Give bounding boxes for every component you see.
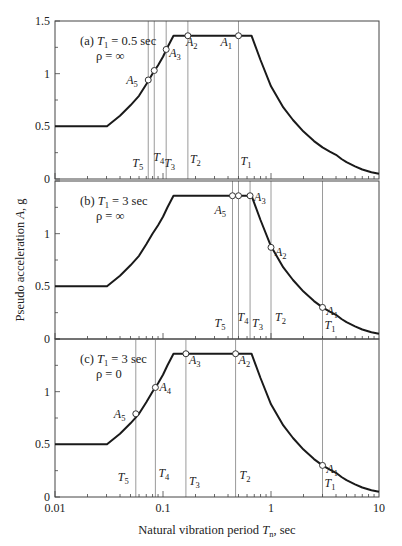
x-tick-label: 10 [373,501,385,515]
period-subscript: 4 [165,472,170,482]
panel-b: 00.51(b) T1 = 3 secρ = ∞A1T1A2T2A3T3T4A5… [35,181,379,346]
panel-c: 00.51(c) T1 = 3 secρ = 0A1T1A2T2A3T3A4T4… [35,339,379,504]
accel-subscript: 5 [121,413,125,423]
panel-title: (b) T1 = 3 sec [80,194,148,210]
accel-subscript: 1 [334,310,338,320]
mode-point-A4 [151,68,157,74]
mode-accel-label-A5: A5 [213,203,226,219]
mode-point-A1 [320,462,326,468]
mode-accel-label-A5: A5 [125,73,138,89]
x-axis-title: Natural vibration period Tn, sec [138,523,296,539]
y-axis-title-unit: , g [13,198,27,211]
accel-subscript: 3 [196,359,200,369]
period-subscript: 3 [259,322,263,332]
mode-point-A3 [247,193,253,199]
panel-title: (c) T1 = 3 sec [80,352,147,368]
period-subscript: 1 [247,160,251,170]
period-subscript: 4 [160,156,165,166]
mode-point-A4 [235,193,241,199]
rho-label: ρ = ∞ [96,209,125,223]
y-tick-label: 1 [44,67,50,81]
mode-period-label-T3: T3 [189,474,200,490]
mode-accel-label-A4: A4 [158,380,171,396]
mode-accel-label-A3: A3 [188,353,201,369]
period-value: = 0.5 sec [108,34,156,48]
y-tick-label: 0 [44,172,50,186]
mode-point-A5 [145,77,151,83]
period-subscript: 1 [331,324,335,334]
period-subscript: 2 [197,158,201,168]
period-subscript: 5 [221,322,225,332]
mode-point-A1 [320,304,326,310]
y-tick-label: 0.5 [35,279,50,293]
mode-accel-label-A2: A2 [274,245,287,261]
mode-accel-label-A2: A2 [185,35,198,51]
mode-period-label-T2: T2 [275,310,286,326]
mode-point-A2 [268,244,274,250]
y-axis-title-main: Pseudo acceleration [13,219,27,322]
y-tick-label: 0 [44,332,50,346]
accel-subscript: 2 [246,359,250,369]
accel-subscript: 2 [193,41,197,51]
mode-period-label-T5: T5 [118,470,129,486]
y-tick-label: 1 [44,385,50,399]
accel-subscript: 4 [167,386,172,396]
y-tick-label: 1.5 [35,14,50,28]
accel-subscript: 5 [222,209,226,219]
panel-letter: (b) [80,194,98,208]
x-axis-title-unit: , sec [273,523,296,537]
period-subscript: 3 [196,480,200,490]
x-axis-title-main: Natural vibration period [138,523,262,537]
mode-accel-label-A2: A2 [238,353,251,369]
mode-period-label-T4: T4 [237,310,249,326]
mode-accel-label-A1: A1 [219,35,232,51]
panel-letter: (c) [80,352,97,366]
mode-point-A1 [235,33,241,39]
period-value: = 3 sec [108,352,147,366]
panel-title: (a) T1 = 0.5 sec [80,34,157,50]
mode-period-label-T2: T2 [240,468,251,484]
y-axis-title-var: A [13,211,27,220]
panel-letter: (a) [80,34,97,48]
y-tick-label: 0.5 [35,437,50,451]
mode-accel-label-A3: A3 [253,190,266,206]
rho-label: ρ = ∞ [96,49,125,63]
x-tick-label: 1 [268,501,274,515]
mode-point-A5 [133,411,139,417]
mode-point-A4 [152,384,158,390]
period-subscript: 3 [171,162,175,172]
y-tick-label: 1 [44,227,50,241]
response-spectrum-chart: 00.511.5(a) T1 = 0.5 secρ = ∞A1T1A2T2A3T… [0,0,402,546]
y-tick-label: 0.5 [35,119,50,133]
period-subscript: 2 [282,316,286,326]
mode-period-label-T2: T2 [190,152,201,168]
mode-period-label-T5: T5 [132,156,143,172]
x-tick-label: 0.1 [156,501,171,515]
accel-subscript: 3 [177,52,181,62]
period-subscript: 2 [246,474,250,484]
period-value: = 3 sec [109,194,148,208]
accel-subscript: 3 [261,196,265,206]
accel-subscript: 1 [228,41,232,51]
mode-period-label-T1: T1 [240,154,251,170]
rho-label: ρ = 0 [96,367,122,381]
accel-subscript: 1 [334,468,338,478]
period-subscript: 4 [244,316,249,326]
mode-accel-label-A5: A5 [113,407,126,423]
period-subscript: 5 [124,476,128,486]
accel-subscript: 2 [282,251,286,261]
mode-point-A5 [229,193,235,199]
mode-period-label-T3: T3 [252,316,263,332]
period-subscript: 5 [139,162,143,172]
mode-period-label-T4: T4 [153,150,165,166]
period-subscript: 1 [331,482,335,492]
y-axis-title: Pseudo acceleration A, g [13,198,27,322]
mode-period-label-T4: T4 [158,466,170,482]
mode-period-label-T5: T5 [214,316,225,332]
panel-a: 00.511.5(a) T1 = 0.5 secρ = ∞A1T1A2T2A3T… [35,14,379,186]
mode-period-label-T3: T3 [164,156,175,172]
accel-subscript: 5 [134,79,138,89]
x-tick-label: 0.01 [45,501,66,515]
mode-accel-label-A3: A3 [168,46,181,62]
